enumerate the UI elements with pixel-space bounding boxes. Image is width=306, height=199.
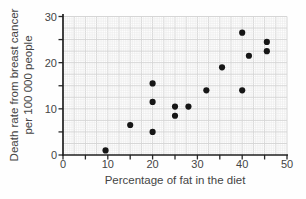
data-point: [264, 48, 270, 54]
x-tick-label: 20: [146, 158, 158, 170]
data-point: [203, 87, 209, 93]
x-tick-label: 10: [102, 158, 114, 170]
data-point: [172, 113, 178, 119]
data-point: [239, 87, 245, 93]
x-axis-title: Percentage of fat in the diet: [63, 174, 287, 186]
y-axis-title-line1: Death rate from breast cancer: [8, 9, 20, 162]
y-tick-label: 10: [45, 103, 57, 115]
data-point: [264, 39, 270, 45]
y-tick-label: 20: [45, 57, 57, 69]
x-tick-label: 0: [60, 158, 66, 170]
x-tick-label: 30: [191, 158, 203, 170]
y-axis-title-line2: per 100 000 people: [22, 35, 34, 134]
data-point: [219, 64, 225, 70]
data-point: [150, 99, 156, 105]
y-axis-title: Death rate from breast cancer per 100 00…: [0, 14, 42, 156]
scatter-chart-canvas: 010203040500102030: [0, 0, 306, 199]
data-point: [127, 122, 133, 128]
data-point: [150, 129, 156, 135]
x-tick-label: 40: [236, 158, 248, 170]
y-tick-label: 0: [51, 149, 57, 161]
data-point: [172, 103, 178, 109]
scatter-plot-figure: 010203040500102030 Death rate from breas…: [0, 0, 306, 199]
data-point: [150, 80, 156, 86]
data-point: [102, 147, 108, 153]
data-point: [246, 53, 252, 59]
data-point: [239, 30, 245, 36]
y-tick-label: 30: [45, 11, 57, 23]
data-point: [185, 103, 191, 109]
x-tick-label: 50: [281, 158, 293, 170]
